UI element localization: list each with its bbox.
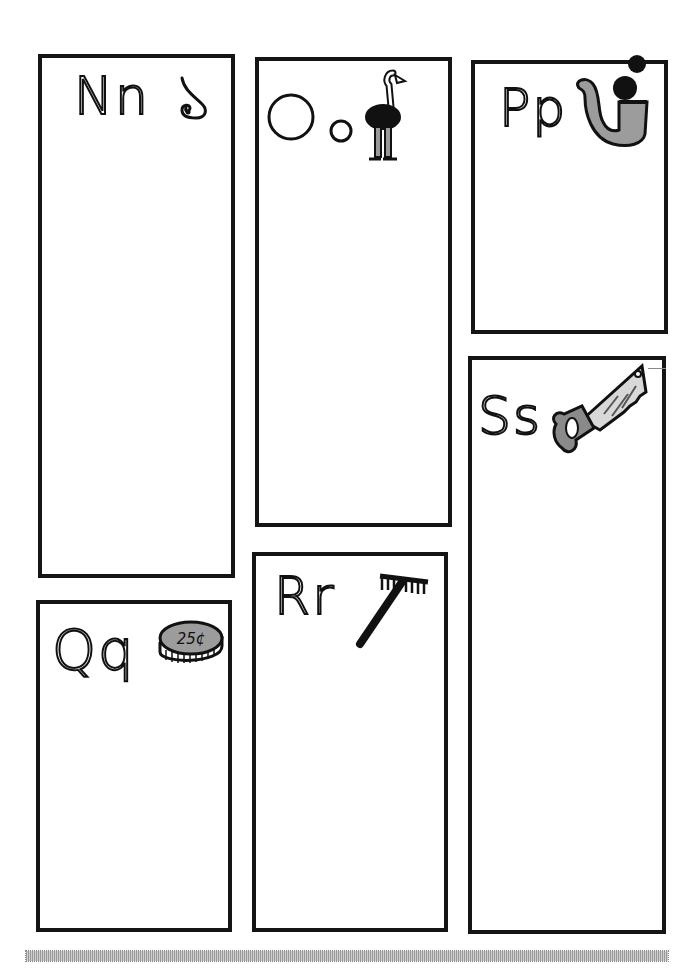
pipe-icon [573,52,653,152]
letters-r: Rr [274,570,336,622]
footer-dotted-bar [26,951,668,961]
letters-p: Pp [499,82,567,134]
card-n: Nn [38,54,235,578]
coin-label: 25¢ [177,630,206,648]
quarter-coin-icon: 25¢ [156,616,226,672]
letters-o-art [267,87,357,147]
letters-s: Ss [478,390,542,442]
saw-icon [546,362,650,458]
card-o: Oo [255,57,452,527]
letters-o: Oo [259,61,260,62]
letters-q: Qq [52,622,136,678]
card-s: Ss [468,356,666,934]
nose-icon [172,76,222,124]
card-q: Qq 25¢ [36,600,232,932]
rake-icon [352,570,434,652]
ostrich-icon [359,67,419,165]
margin-tick [648,368,666,369]
card-r: Rr [252,552,448,932]
card-p: Pp [471,60,668,334]
letters-n: Nn [74,70,150,122]
